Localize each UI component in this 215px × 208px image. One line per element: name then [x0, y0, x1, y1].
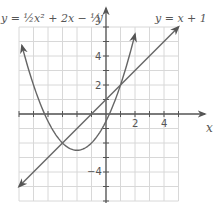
graph: y = ½x² + 2x − ½ y = x + 1 x y 2 4 4 2 −… — [0, 0, 215, 208]
y-tick-label-neg4: −4 — [87, 166, 102, 177]
x-tick-label-4: 4 — [161, 118, 167, 129]
y-tick-label-4: 4 — [95, 51, 101, 62]
line-label: y = x + 1 — [154, 12, 207, 25]
y-tick-label-2: 2 — [95, 80, 101, 91]
y-axis-label: y — [95, 11, 103, 25]
parabola-curve — [22, 34, 135, 150]
x-tick-label-2: 2 — [132, 118, 138, 129]
parabola-label: y = ½x² + 2x − ½ — [0, 12, 101, 25]
x-axis-label: x — [206, 121, 213, 135]
